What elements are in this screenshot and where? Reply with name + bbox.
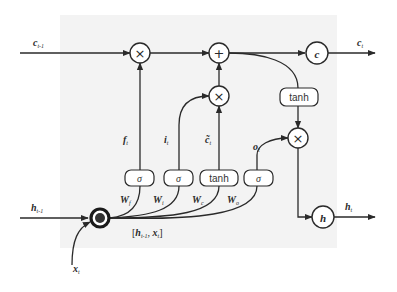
svg-text:×: × — [135, 46, 146, 61]
x-input-label: xt — [72, 263, 80, 275]
concat-node — [91, 209, 109, 227]
hidden-prev-label: ht-1 — [31, 202, 43, 214]
svg-text:+: + — [214, 46, 225, 61]
input-multiply-node: × — [209, 86, 229, 106]
cell-tanh-box: tanh — [280, 88, 318, 106]
add-node: + — [209, 43, 229, 63]
svg-text:×: × — [293, 131, 304, 146]
hidden-state-node: h — [312, 206, 334, 228]
cell-prev-label: ct-1 — [33, 37, 44, 49]
svg-text:tanh: tanh — [209, 173, 228, 184]
candidate-tanh-box: tanh — [200, 170, 238, 186]
svg-text:tanh: tanh — [289, 92, 308, 103]
cell-state-node: c — [306, 42, 328, 64]
output-multiply-node: × — [288, 128, 308, 148]
svg-text:h: h — [320, 212, 326, 224]
svg-text:×: × — [214, 89, 225, 104]
hidden-output-label: ht — [345, 201, 353, 213]
forget-multiply-node: × — [130, 43, 150, 63]
lstm-cell-diagram: × + × × c h tanh σ σ tanh — [0, 0, 397, 292]
output-sigma-box: σ — [244, 170, 273, 186]
input-sigma-box: σ — [164, 170, 193, 186]
forget-sigma-box: σ — [125, 170, 154, 186]
svg-text:c: c — [315, 48, 320, 60]
cell-output-label: ct — [357, 37, 363, 49]
